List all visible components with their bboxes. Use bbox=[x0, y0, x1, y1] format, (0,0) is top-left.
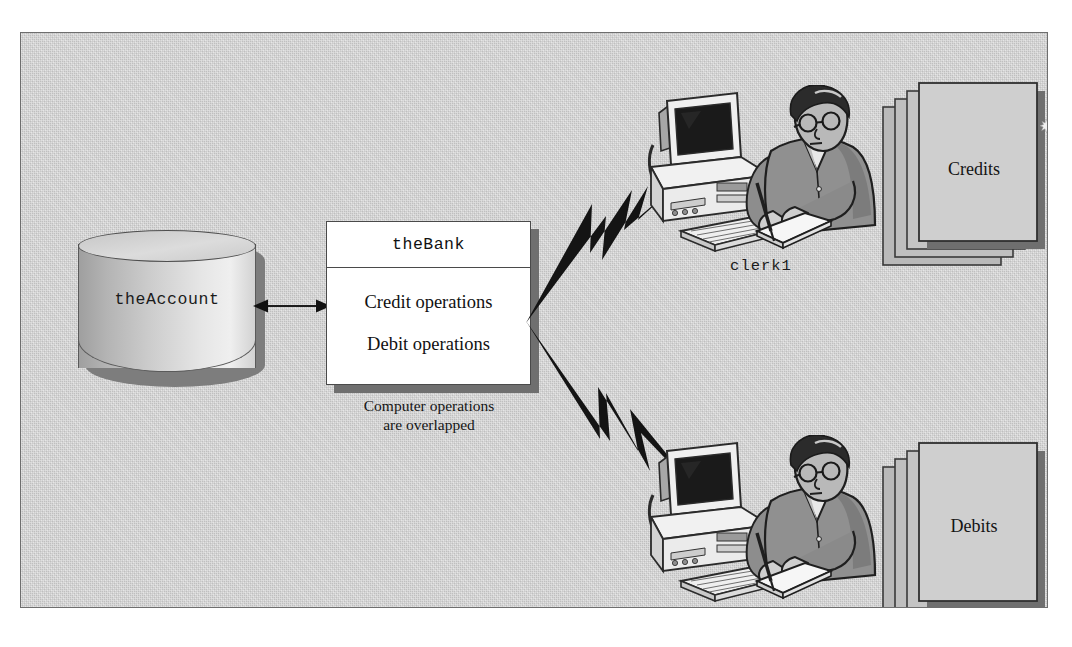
page-top-bleed bbox=[0, 0, 1072, 14]
account-cylinder: theAccount bbox=[78, 230, 258, 383]
cylinder-top-ellipse bbox=[78, 230, 256, 262]
speck-artifact-icon bbox=[1040, 119, 1048, 133]
debits-label: Debits bbox=[919, 516, 1029, 537]
bank-box: theBank Credit operations Debit operatio… bbox=[326, 221, 531, 385]
bank-caption: Computer operations are overlapped bbox=[321, 396, 537, 434]
page-canvas: theAccount theBank Credit operations Deb… bbox=[0, 0, 1072, 647]
account-bank-arrow bbox=[253, 297, 331, 315]
workstation-clerk2 bbox=[645, 435, 877, 608]
clerk2-label: clerk2 bbox=[645, 607, 877, 608]
figure-frame: theAccount theBank Credit operations Deb… bbox=[20, 32, 1048, 608]
workstation-clerk1 bbox=[645, 85, 877, 280]
clerk1-label: clerk1 bbox=[645, 257, 877, 275]
bank-title: theBank bbox=[327, 222, 530, 268]
account-label: theAccount bbox=[78, 290, 256, 309]
credits-label: Credits bbox=[919, 159, 1029, 180]
bank-operation-debit: Debit operations bbox=[327, 334, 530, 355]
bank-caption-line1: Computer operations bbox=[321, 396, 537, 415]
bank-operation-credit: Credit operations bbox=[327, 292, 530, 313]
bank-caption-line2: are overlapped bbox=[321, 415, 537, 434]
